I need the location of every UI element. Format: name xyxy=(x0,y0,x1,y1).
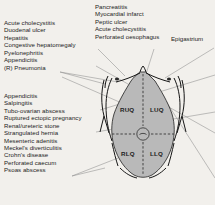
arm-right-lower xyxy=(100,116,104,132)
nipple-marker-left xyxy=(167,78,171,81)
list-item: Myocardial infarct xyxy=(95,10,159,17)
nipple-marker-right xyxy=(115,78,119,81)
epigastrium-label: Epigastrium xyxy=(171,35,203,42)
list-item: Pancreatitis xyxy=(95,3,159,10)
list-item: Acute cholecystitis xyxy=(4,19,76,26)
list-item: Perforated caecum xyxy=(4,159,82,166)
list-item: Strangulated hernia xyxy=(4,129,82,136)
list-item: Appendicitis xyxy=(4,92,82,99)
leader-line-epigastrium xyxy=(165,48,214,78)
list-item: Hepatitis xyxy=(4,34,76,41)
quadrant-label-ruq: RUQ xyxy=(120,106,134,113)
quadrant-label-luq: LUQ xyxy=(150,106,164,113)
leader-line-topcenter-2 xyxy=(146,49,154,74)
quadrant-label-rlq: RLQ xyxy=(121,150,135,157)
list-item: Acute cholecystitis xyxy=(95,25,159,32)
leader-line-left-upper-b xyxy=(60,72,105,84)
xiphoid-notch xyxy=(140,66,146,72)
list-item: Mesenteric adenitis xyxy=(4,137,82,144)
list-item: Renal/ureteric stone xyxy=(4,122,82,129)
list-item: (R) Pneumonia xyxy=(4,64,76,71)
list-item: Pyelonephritis xyxy=(4,49,76,56)
quadrant-label-llq: LLQ xyxy=(150,150,163,157)
diagram-canvas: RUQ LUQ RLQ LLQ Acute cholecystitis Duod… xyxy=(0,0,215,205)
list-item: Congestive hepatomegaly xyxy=(4,41,76,48)
list-item: Psoas abscess xyxy=(4,166,82,173)
list-item: Duodenal ulcer xyxy=(4,26,76,33)
list-item: Perforated oesophagus xyxy=(95,33,159,40)
arm-left xyxy=(182,80,184,116)
arm-right xyxy=(102,80,104,116)
shoulder-right xyxy=(105,76,108,88)
leader-line-topcenter xyxy=(98,49,125,76)
epigastric-causes-list: Pancreatitis Myocardial infarct Peptic u… xyxy=(95,3,159,40)
left-lower-quadrant-causes-list: Appendicitis Salpingitis Tubo-ovarian ab… xyxy=(4,92,82,174)
list-item: Crohn's disease xyxy=(4,151,82,158)
list-item: Peptic ulcer xyxy=(95,18,159,25)
list-item: Meckel's diverticulitis xyxy=(4,144,82,151)
left-upper-quadrant-causes-list: Acute cholecystitis Duodenal ulcer Hepat… xyxy=(4,19,76,71)
list-item: Ruptured ectopic pregnancy xyxy=(4,114,82,121)
list-item: Salpingitis xyxy=(4,99,82,106)
list-item: Appendicitis xyxy=(4,56,76,63)
list-item: Tubo-ovarian abscess xyxy=(4,107,82,114)
